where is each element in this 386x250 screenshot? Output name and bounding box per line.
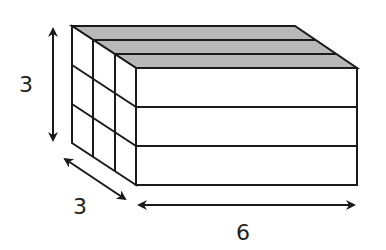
- depth-label: 3: [73, 194, 87, 219]
- length-label: 6: [236, 220, 250, 245]
- prism-diagram: 3 3 6: [0, 0, 386, 250]
- height-label: 3: [19, 72, 33, 97]
- front-face: [136, 68, 357, 185]
